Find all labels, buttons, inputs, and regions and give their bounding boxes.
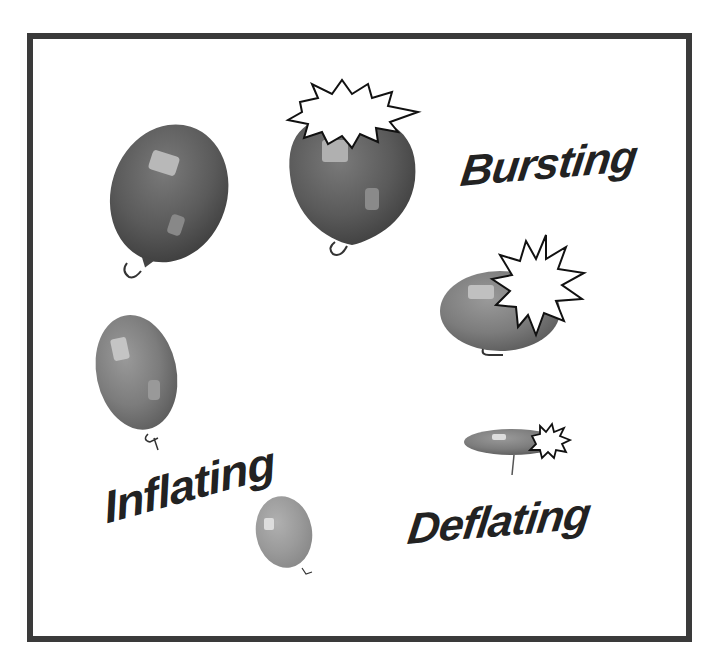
balloon-icon xyxy=(252,496,322,581)
balloon-icon xyxy=(462,420,582,480)
balloon-large xyxy=(105,125,235,285)
balloon-bursting-top xyxy=(280,80,430,265)
balloon-icon xyxy=(438,235,598,365)
balloon-medium xyxy=(90,310,190,450)
balloon-icon xyxy=(105,125,235,285)
balloon-bursting-side xyxy=(438,235,598,365)
balloon-small xyxy=(252,496,322,581)
balloon-icon xyxy=(90,310,190,450)
balloon-icon xyxy=(280,80,430,265)
balloon-deflated xyxy=(462,420,582,480)
